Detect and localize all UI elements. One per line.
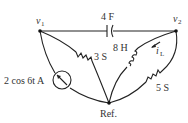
label-capacitor: 4 F bbox=[101, 11, 115, 22]
label-v1-sub: 1 bbox=[41, 20, 45, 28]
resistor-3s bbox=[76, 52, 92, 61]
label-v2-sub: 2 bbox=[178, 18, 182, 26]
label-resistor-3: 3 S bbox=[94, 51, 107, 62]
current-source bbox=[53, 71, 71, 89]
node-v1-dot bbox=[38, 29, 42, 33]
capacitor-4f bbox=[107, 25, 113, 37]
label-current-sub: L bbox=[160, 50, 164, 58]
label-current: i bbox=[156, 45, 159, 56]
wire-r3-ref bbox=[92, 61, 109, 103]
node-v2-dot bbox=[174, 29, 178, 33]
wire-v1-r3 bbox=[40, 31, 76, 52]
circuit-diagram: v 1 v 2 4 F 8 H 3 S 5 S 2 cos 6t A i L R… bbox=[0, 0, 188, 123]
node-ref-dot bbox=[107, 101, 111, 105]
label-inductor: 8 H bbox=[113, 42, 128, 53]
label-source: 2 cos 6t A bbox=[4, 75, 45, 86]
inductor-8h bbox=[129, 48, 138, 66]
label-ref: Ref. bbox=[100, 108, 117, 119]
wire-v2-r5 bbox=[163, 31, 177, 70]
resistor-5s bbox=[146, 70, 163, 82]
wire-source-ref bbox=[70, 88, 109, 103]
label-resistor-5: 5 S bbox=[156, 82, 169, 93]
